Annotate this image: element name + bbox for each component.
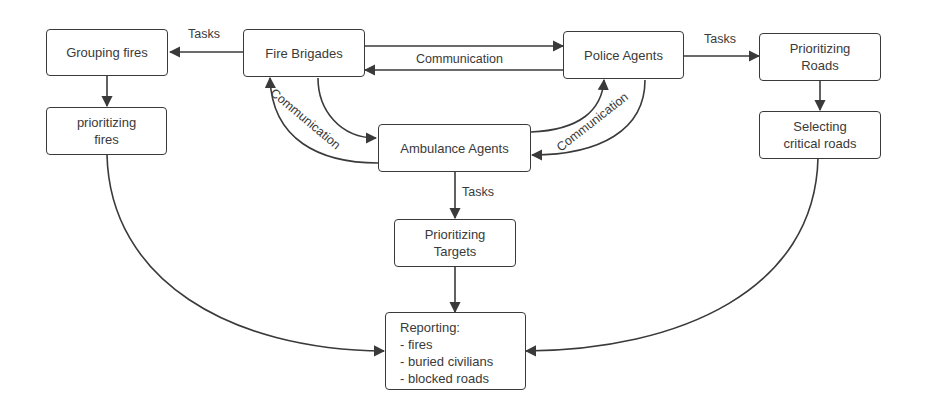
node-text: - fires [400,336,433,353]
node-prioritizing-targets: Prioritizing Targets [394,219,516,267]
edge-selecting-to-reporting [526,158,818,351]
node-text: Reporting: [400,319,460,336]
node-text: Police Agents [584,47,663,64]
node-text: critical roads [784,135,857,152]
node-text: prioritizing [77,114,136,131]
node-prioritizing-fires: prioritizing fires [46,107,167,155]
node-text: - buried civilians [400,353,493,370]
node-text: Roads [801,57,839,74]
node-fire-brigades: Fire Brigades [243,29,365,77]
node-text: Prioritizing [425,226,486,243]
node-text: Targets [434,243,477,260]
edge-label-fire-police-communication: Communication [416,52,503,66]
edge-label-ambulance-tasks: Tasks [462,185,494,199]
node-text: fires [94,131,119,148]
node-text: Grouping fires [66,44,148,61]
node-selecting-critical-roads: Selecting critical roads [759,111,881,159]
node-police-agents: Police Agents [563,31,684,79]
node-ambulance-agents: Ambulance Agents [378,124,531,172]
edge-ambulance-to-fire [270,78,378,163]
node-text: - blocked roads [400,370,489,387]
node-prioritizing-roads: Prioritizing Roads [759,33,881,81]
diagram-canvas: Grouping fires Fire Brigades Police Agen… [0,0,928,416]
node-text: Selecting [793,118,846,135]
edge-label-police-tasks: Tasks [704,32,736,46]
node-grouping-fires: Grouping fires [46,29,168,76]
edge-label-fire-tasks: Tasks [188,27,220,41]
node-reporting: Reporting: - fires - buried civilians - … [385,312,526,390]
edge-fires-to-reporting [107,155,384,351]
node-text: Prioritizing [790,40,851,57]
node-text: Fire Brigades [265,45,342,62]
node-text: Ambulance Agents [400,140,508,157]
